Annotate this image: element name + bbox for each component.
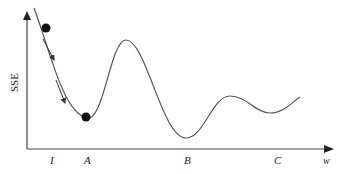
x-axis-label: w (323, 155, 330, 166)
tick-label-A: A (83, 154, 91, 166)
initial-point-dot (42, 24, 51, 33)
x-axis (27, 145, 334, 153)
tick-label-C: C (274, 154, 282, 166)
x-axis-arrow-icon (324, 145, 334, 153)
tick-label-B: B (184, 154, 191, 166)
local-minimum-dot (82, 113, 91, 122)
y-axis-label: SSE (8, 73, 20, 92)
descent-arrow-1 (43, 39, 54, 60)
sse-error-surface-diagram: SSE I A B C w (0, 0, 340, 174)
tick-label-I: I (49, 154, 55, 166)
y-axis (23, 11, 31, 149)
sse-curve (34, 8, 300, 138)
y-axis-arrow-icon (23, 11, 31, 20)
